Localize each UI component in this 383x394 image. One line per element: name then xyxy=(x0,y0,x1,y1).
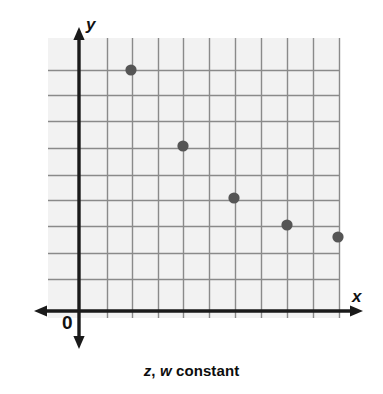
origin-label: 0 xyxy=(62,313,73,332)
plot-canvas xyxy=(0,0,383,394)
scatter-plot-figure: y x 0 z, w constant xyxy=(0,0,383,394)
y-axis-label: y xyxy=(86,16,95,33)
data-point xyxy=(332,231,343,242)
data-point xyxy=(125,64,136,75)
y-axis-arrow-down xyxy=(73,336,84,349)
data-point xyxy=(281,219,292,230)
y-axis-arrow-up xyxy=(73,27,84,40)
plot-background xyxy=(48,38,340,318)
data-point xyxy=(177,140,188,151)
x-axis-label: x xyxy=(352,288,361,305)
x-axis-arrow-left xyxy=(34,305,47,316)
data-point xyxy=(228,192,239,203)
figure-caption: z, w constant xyxy=(0,362,383,379)
x-axis-arrow-right xyxy=(350,305,363,316)
caption-separator: , xyxy=(151,362,160,379)
caption-variable-w: w xyxy=(160,362,172,379)
caption-word-constant: constant xyxy=(176,362,239,379)
